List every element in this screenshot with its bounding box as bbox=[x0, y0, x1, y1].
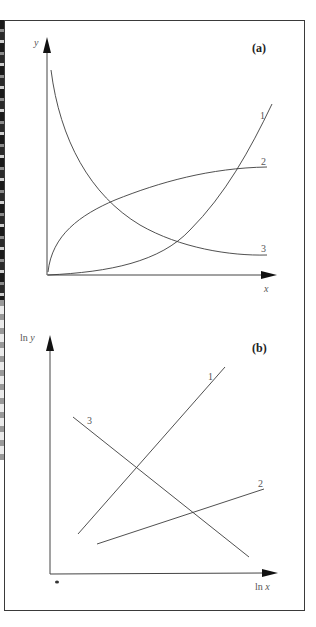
panel-b-line-1-label: 1 bbox=[208, 371, 213, 382]
panel-b-y-label-text: ln y bbox=[20, 332, 35, 343]
figure-svg: y x (a) 1 2 3 ln y ln x (b) 1 2 3 bbox=[0, 0, 316, 627]
panel-a-curve-1-label: 1 bbox=[260, 110, 265, 121]
panel-a-curve-2-label: 2 bbox=[261, 156, 266, 167]
panel-b-x-label: ln x bbox=[255, 581, 270, 592]
panel-a-x-arrow-icon bbox=[261, 271, 277, 279]
panel-b: ln y ln x (b) 1 2 3 bbox=[20, 332, 278, 592]
panel-b-line-3 bbox=[73, 417, 249, 557]
panel-b-line-2 bbox=[97, 489, 264, 544]
panel-b-line-3-label: 3 bbox=[87, 415, 92, 426]
panel-a: y x (a) 1 2 3 bbox=[33, 37, 277, 294]
panel-a-y-arrow-icon bbox=[43, 37, 51, 53]
panel-b-x-axis bbox=[50, 573, 264, 574]
panel-b-y-arrow-icon bbox=[46, 335, 54, 351]
panel-a-curve-3 bbox=[51, 70, 267, 255]
panel-a-curve-1 bbox=[48, 104, 272, 275]
origin-mark bbox=[55, 580, 59, 583]
panel-a-x-label: x bbox=[263, 283, 269, 294]
panel-a-label: (a) bbox=[252, 41, 266, 55]
panel-a-curve-2 bbox=[48, 167, 267, 272]
panel-b-line-2-label: 2 bbox=[258, 478, 263, 489]
panel-b-y-label: ln y bbox=[20, 332, 35, 343]
panel-a-curve-3-label: 3 bbox=[261, 243, 266, 254]
panel-b-label: (b) bbox=[252, 341, 267, 355]
panel-a-y-label: y bbox=[33, 37, 39, 48]
panel-b-x-arrow-icon bbox=[262, 569, 278, 577]
